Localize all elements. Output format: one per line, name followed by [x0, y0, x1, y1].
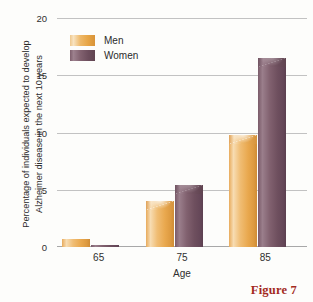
x-axis-label: Age — [57, 268, 307, 279]
bar-women-age-85 — [258, 58, 286, 247]
y-axis-tick-label: 15 — [7, 70, 47, 81]
legend-label-men: Men — [104, 35, 123, 46]
legend-label-women: Women — [104, 50, 138, 61]
legend-item-women: Women — [70, 48, 138, 62]
figure-container: Percentage of individuals expected to de… — [0, 0, 313, 302]
bar-top-highlight — [229, 135, 257, 144]
y-axis-tick-label: 20 — [7, 13, 47, 24]
y-axis-tick-label: 5 — [7, 184, 47, 195]
chart-legend: Men Women — [70, 33, 138, 63]
bar-men-age-75 — [146, 201, 174, 247]
y-axis-tick-label: 0 — [7, 242, 47, 253]
bar-top-highlight — [175, 185, 203, 194]
legend-item-men: Men — [70, 33, 138, 47]
bar-men-age-85 — [229, 135, 257, 247]
y-axis-tick-label: 10 — [7, 127, 47, 138]
figure-caption: Figure 7 — [251, 283, 297, 298]
x-axis-tick-label-65: 65 — [93, 252, 104, 263]
x-axis-tick-label-85: 85 — [260, 252, 271, 263]
bar-women-age-65 — [91, 245, 119, 247]
bar-men-age-65 — [62, 239, 90, 247]
x-axis-tick-label-75: 75 — [176, 252, 187, 263]
bar-top-highlight — [146, 201, 174, 210]
bar-women-age-75 — [175, 185, 203, 247]
legend-swatch-women-icon — [70, 50, 95, 61]
bar-top-highlight — [258, 58, 286, 67]
legend-swatch-men-icon — [70, 35, 95, 46]
